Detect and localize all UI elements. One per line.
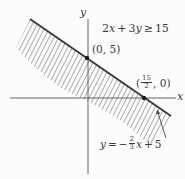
inequality-plus: + (117, 22, 126, 35)
equation-plus: + (144, 139, 153, 150)
line-equation-label: y=− 2 3 x+5 (100, 136, 161, 152)
x-intercept-label: ( 15 2 , 0) (136, 75, 170, 91)
y-axis-label: y (80, 7, 86, 18)
x-intercept-open-paren: ( (136, 78, 140, 89)
equation-minus: − (119, 139, 128, 150)
inequality-relation: ≥ (144, 22, 153, 35)
x-intercept-fraction: 15 2 (141, 75, 152, 91)
inequality-coeff1: 2 (102, 22, 109, 35)
x-intercept-point (142, 96, 146, 100)
inequality-var1: x (109, 22, 115, 35)
linear-inequality-graph: y x 2x+3y≥15 (0, 5) ( 15 2 , 0) y=− 2 3 … (0, 0, 185, 179)
inequality-var2: y (135, 22, 141, 35)
inequality-rhs: 15 (155, 22, 169, 35)
equation-constant: 5 (155, 139, 162, 150)
equation-fraction: 2 3 (129, 136, 135, 152)
x-intercept-close: , 0) (153, 78, 170, 89)
y-intercept-label: (0, 5) (92, 44, 120, 55)
x-axis-label: x (177, 91, 183, 102)
equation-frac-denominator: 3 (130, 144, 134, 151)
inequality-label: 2x+3y≥15 (102, 23, 169, 34)
equation-lhs: y (100, 139, 106, 150)
equation-equals: = (108, 139, 117, 150)
y-intercept-point (85, 56, 89, 60)
equation-var: x (136, 139, 142, 150)
x-intercept-denominator: 2 (144, 83, 148, 90)
